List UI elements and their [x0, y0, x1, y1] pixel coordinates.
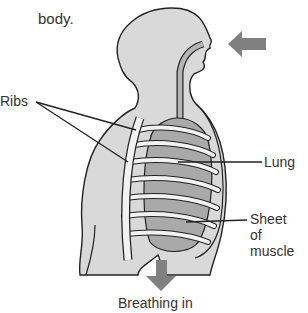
arrow-left-icon: [228, 31, 266, 57]
label-of: of: [250, 227, 294, 243]
label-ribs: Ribs: [0, 93, 28, 109]
label-lung: Lung: [264, 154, 295, 170]
label-muscle: muscle: [250, 243, 294, 259]
diagram-title: Breathing in: [118, 295, 193, 311]
label-sheet: Sheet: [250, 211, 294, 227]
breathing-diagram: [0, 0, 308, 313]
label-sheet-of-muscle: Sheet of muscle: [250, 211, 294, 259]
